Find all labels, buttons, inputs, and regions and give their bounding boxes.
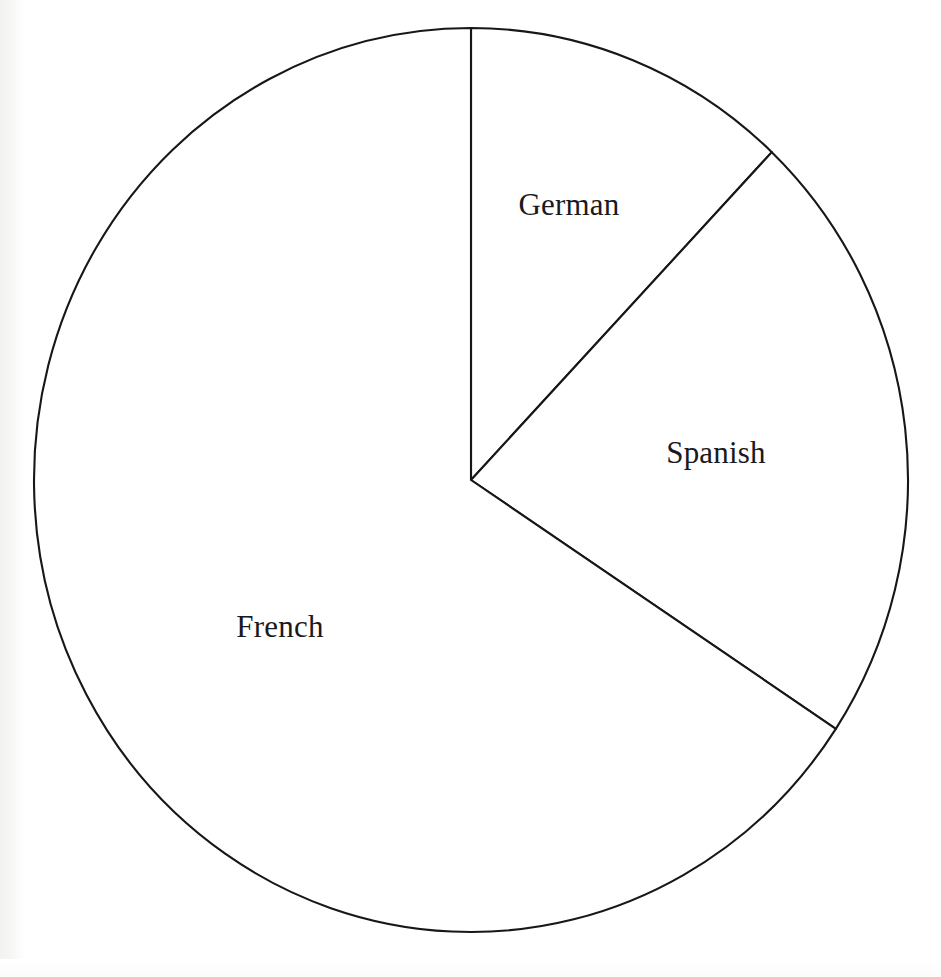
pie-label-spanish: Spanish <box>666 435 766 470</box>
pie-slices <box>34 28 908 932</box>
pie-label-french: French <box>236 609 324 644</box>
pie-label-german: German <box>518 187 619 222</box>
pie-chart-page: German Spanish French <box>0 0 941 977</box>
pie-chart: German Spanish French <box>0 0 941 977</box>
